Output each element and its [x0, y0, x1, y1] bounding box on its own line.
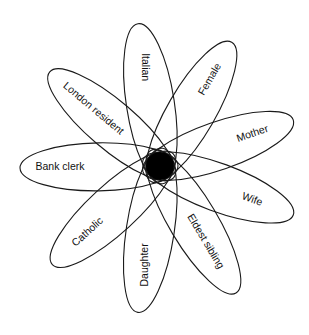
- shared-center-hub: [146, 152, 174, 180]
- petal-label-female: Female: [195, 61, 223, 97]
- petal-label-daughter: Daughter: [138, 243, 150, 287]
- petal-label-mother: Mother: [235, 122, 270, 144]
- identity-flower-diagram: ItalianFemaleMotherWifeEldest siblingDau…: [0, 0, 309, 335]
- petal-label-london-resident: London resident: [61, 79, 126, 137]
- petal-label-italian: Italian: [140, 53, 152, 81]
- petal-label-wife: Wife: [240, 189, 264, 208]
- petal-label-bank-clerk: Bank clerk: [35, 160, 85, 172]
- petal-label-catholic: Catholic: [69, 214, 105, 248]
